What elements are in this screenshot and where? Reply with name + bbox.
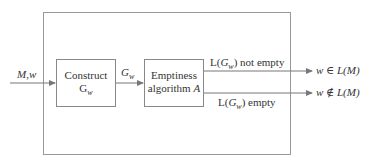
- branch-bottom-label: L(Gw) empty: [218, 97, 276, 111]
- input-label: M,w: [17, 69, 36, 80]
- emptiness-line1: Emptiness: [144, 69, 204, 82]
- construct-line2: Gw: [56, 82, 116, 99]
- branch-top-label: L(Gw) not empty: [210, 57, 284, 71]
- output-top-label: w ∈ L(M): [316, 65, 360, 76]
- emptiness-line2: algorithm A: [144, 82, 204, 95]
- edge-label: Gw: [121, 67, 134, 81]
- output-bottom-label: w ∉ L(M): [316, 87, 360, 98]
- construct-box-label: Construct Gw: [56, 69, 116, 99]
- construct-line1: Construct: [56, 69, 116, 82]
- emptiness-box-label: Emptiness algorithm A: [144, 69, 204, 95]
